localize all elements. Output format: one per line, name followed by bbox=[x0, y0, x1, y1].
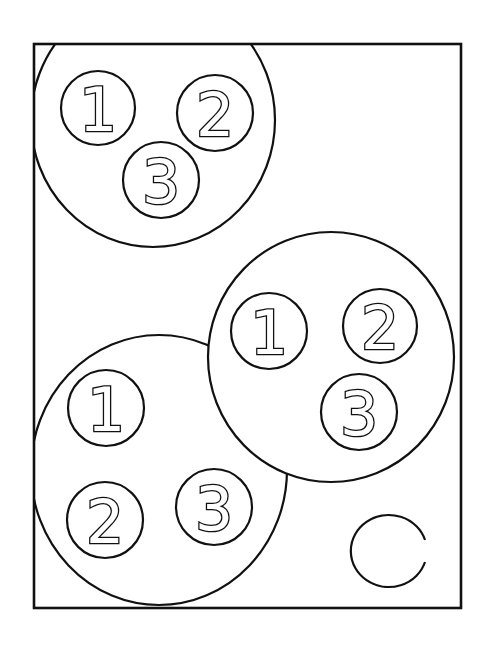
ball-label: 2 bbox=[196, 80, 234, 150]
ball-3: 3 bbox=[176, 469, 252, 545]
ball-label: 3 bbox=[195, 474, 233, 544]
group-circle-right bbox=[208, 232, 454, 482]
ball-3: 3 bbox=[123, 142, 199, 218]
ball-2: 2 bbox=[67, 482, 143, 558]
ball-1: 1 bbox=[68, 370, 144, 446]
ball-label: 1 bbox=[250, 298, 288, 368]
ball-label: 1 bbox=[87, 375, 125, 445]
ball-2: 2 bbox=[177, 75, 253, 151]
ball-label: 2 bbox=[86, 487, 124, 557]
group-top-left: 1 2 3 bbox=[61, 71, 253, 218]
ball-1: 1 bbox=[231, 293, 307, 369]
ball-1: 1 bbox=[61, 71, 135, 145]
ball-label: 1 bbox=[79, 75, 117, 145]
group-circle-bottom-left bbox=[31, 335, 287, 605]
empty-circle bbox=[351, 515, 425, 587]
ball-label: 3 bbox=[340, 379, 378, 449]
group-right: 1 2 3 bbox=[231, 289, 417, 450]
ball-3: 3 bbox=[321, 374, 397, 450]
diagram-canvas: 1 2 3 1 2 3 1 2 bbox=[0, 0, 487, 648]
ball-2: 2 bbox=[343, 289, 417, 363]
ball-label: 3 bbox=[142, 147, 180, 217]
ball-label: 2 bbox=[361, 293, 399, 363]
group-bottom-left: 1 2 3 bbox=[67, 370, 252, 558]
